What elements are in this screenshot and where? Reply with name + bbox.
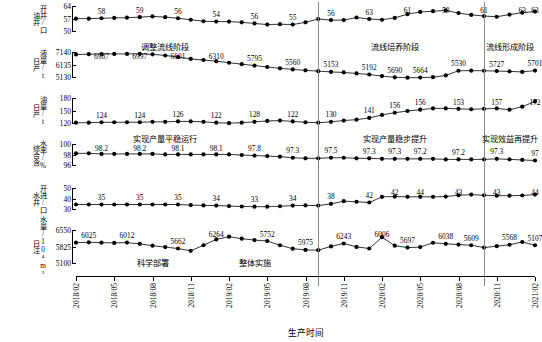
x-tick [497, 277, 498, 281]
data-point [367, 17, 371, 21]
data-point [176, 16, 180, 20]
stage-annotation: 科学部署 [137, 256, 169, 268]
data-label: 35 [174, 194, 181, 201]
data-point [240, 62, 244, 66]
data-point [99, 120, 103, 124]
y-axis-title-line: 日注 [31, 240, 38, 254]
data-label: 34 [213, 195, 220, 202]
data-point [150, 152, 154, 156]
data-point [444, 106, 448, 110]
data-label: 153 [453, 98, 464, 105]
data-point [278, 204, 282, 208]
data-label: 43 [493, 188, 500, 195]
data-point [125, 52, 129, 56]
data-point [189, 249, 193, 253]
data-point [533, 243, 537, 247]
data-point [367, 116, 371, 120]
data-point [393, 16, 397, 20]
data-label: 122 [287, 110, 298, 117]
y-axis-title-line: 日产 [31, 104, 38, 118]
data-label: 44 [531, 188, 538, 195]
data-label: 33 [251, 196, 258, 203]
data-point [405, 76, 409, 80]
x-tick-label: 2020/11 [492, 283, 501, 308]
data-point [444, 157, 448, 161]
y-tick-labels-comprehensive-water-cut: 9698100 [46, 144, 72, 166]
data-label: 172 [529, 98, 540, 105]
data-label: 6038 [438, 233, 453, 240]
data-point [112, 241, 116, 245]
data-point [99, 16, 103, 20]
data-label: 97.3 [490, 148, 503, 155]
x-tick-label: 2018/02 [72, 283, 81, 308]
x-tick [114, 277, 115, 281]
data-label: 98.2 [95, 144, 108, 151]
data-point [456, 157, 460, 161]
data-point [380, 18, 384, 22]
data-label: 97.2 [414, 148, 427, 155]
data-point [329, 18, 333, 22]
data-point [418, 108, 422, 112]
y-tick-label: 6135 [56, 62, 71, 70]
data-point [112, 16, 116, 20]
data-point [507, 157, 511, 161]
data-point [303, 156, 307, 160]
data-point [99, 241, 103, 245]
data-point [303, 120, 307, 124]
data-point [303, 68, 307, 72]
data-label: 97.3 [286, 147, 299, 154]
data-label: 97.2 [452, 148, 465, 155]
data-label: 156 [415, 99, 426, 106]
data-point [87, 202, 91, 206]
data-point [278, 66, 282, 70]
data-point [189, 203, 193, 207]
data-point [533, 158, 537, 162]
data-point [469, 243, 473, 247]
data-point [431, 75, 435, 79]
data-point [176, 202, 180, 206]
plot-area-oil-wells-open: 58595654565556636159616363 [76, 6, 535, 32]
data-point [469, 193, 473, 197]
data-point [291, 119, 295, 123]
data-label: 5192 [362, 64, 377, 71]
data-point [469, 107, 473, 111]
data-point [227, 235, 231, 239]
data-point [87, 17, 91, 21]
data-point [520, 158, 524, 162]
phase-divider-1 [318, 2, 319, 286]
data-label: 122 [211, 112, 222, 119]
y-tick-labels-daily-oil-production: 120150180 [46, 98, 72, 124]
data-label: 97 [531, 150, 538, 157]
data-point [74, 17, 78, 21]
data-point [240, 204, 244, 208]
data-label: 56 [327, 9, 334, 16]
data-label: 124 [96, 111, 107, 118]
data-point [189, 119, 193, 123]
y-tick-label: 5130 [56, 74, 71, 82]
data-label: 157 [491, 98, 502, 105]
panel-oil-wells-open: 油井开井/口50576458595654565556636159616363 [0, 6, 538, 32]
panel-daily-liquid-production: 日产液量/t5130613571406987699766016310579555… [0, 52, 538, 78]
data-point [265, 65, 269, 69]
data-point [278, 22, 282, 26]
data-point [367, 156, 371, 160]
data-point [150, 120, 154, 124]
data-point [342, 70, 346, 74]
data-point [444, 73, 448, 77]
x-tick-label: 2020/02 [378, 283, 387, 308]
data-point [431, 241, 435, 245]
x-tick-label: 2019/02 [225, 283, 234, 308]
data-label: 97.5 [325, 147, 338, 154]
y-tick-labels-oil-wells-open: 505764 [46, 6, 72, 32]
y-axis-title-line: 开进/口 [39, 185, 46, 214]
data-point [418, 157, 422, 161]
data-point [380, 113, 384, 117]
data-point [125, 120, 129, 124]
data-label: 35 [136, 194, 143, 201]
data-point [380, 195, 384, 199]
data-point [405, 157, 409, 161]
data-point [303, 20, 307, 24]
y-axis-title-line: 油井 [31, 12, 38, 26]
data-point [329, 202, 333, 206]
data-point [265, 205, 269, 209]
